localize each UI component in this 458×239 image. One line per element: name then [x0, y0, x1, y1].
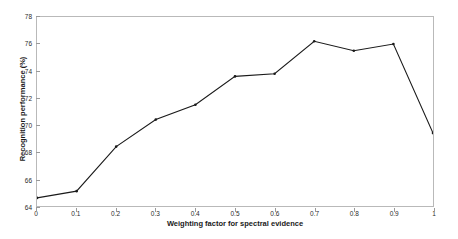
x-axis-title: Weighting factor for spectral evidence [36, 219, 434, 229]
data-point-marker [353, 49, 356, 52]
x-tick-mark [434, 208, 435, 212]
y-tick-mark [36, 98, 40, 99]
plot-area [36, 16, 434, 207]
line-chart-svg [37, 17, 433, 206]
data-point-marker [273, 72, 276, 75]
y-axis-title: Recognition performance (%) [18, 34, 28, 184]
data-point-marker [155, 118, 158, 121]
y-tick-label: 78 [0, 13, 32, 20]
y-tick-mark [36, 125, 40, 126]
data-point-marker [37, 197, 38, 200]
y-tick-mark [36, 43, 40, 44]
data-point-marker [194, 103, 197, 106]
data-point-marker [115, 145, 118, 148]
y-axis-ticks: 6466687072747678 [0, 0, 34, 239]
x-tick-mark [315, 208, 316, 212]
data-point-marker [313, 40, 316, 43]
x-tick-mark [275, 208, 276, 212]
x-tick-mark [76, 208, 77, 212]
data-point-markers [37, 40, 433, 199]
data-point-marker [75, 190, 78, 193]
figure-canvas: 6466687072747678 00.10.20.30.40.50.60.70… [0, 0, 458, 239]
y-tick-mark [36, 16, 40, 17]
x-tick-mark [354, 208, 355, 212]
data-point-marker [234, 75, 237, 78]
x-tick-mark [155, 208, 156, 212]
data-point-marker [432, 132, 433, 135]
x-tick-mark [394, 208, 395, 212]
data-point-marker [392, 43, 395, 46]
y-tick-mark [36, 180, 40, 181]
x-tick-mark [195, 208, 196, 212]
y-tick-mark [36, 207, 40, 208]
x-tick-mark [116, 208, 117, 212]
x-tick-mark [235, 208, 236, 212]
y-tick-mark [36, 71, 40, 72]
data-series-line [37, 41, 433, 198]
x-tick-mark [36, 208, 37, 212]
y-tick-mark [36, 152, 40, 153]
